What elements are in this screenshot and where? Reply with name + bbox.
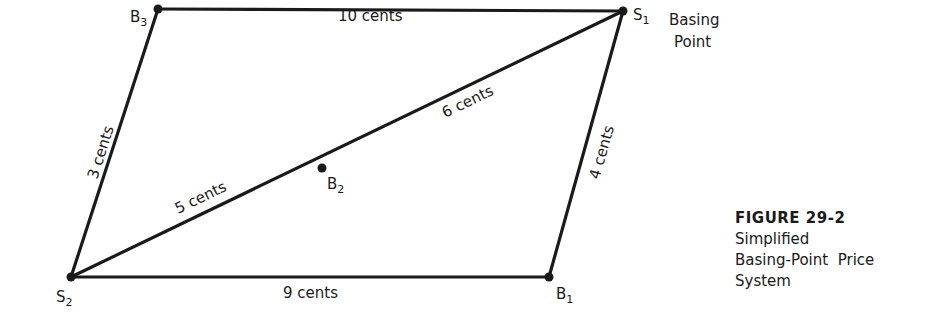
- figure-title-line1: Simplified: [735, 229, 874, 250]
- node-dot-s2: [67, 273, 76, 282]
- figure-caption: FIGURE 29-2 Simplified Basing-Point Pric…: [735, 208, 874, 292]
- edge-label-5-cents: 5 cents: [172, 177, 230, 217]
- node-label-s1: S1: [633, 6, 650, 27]
- edge-s2-s1-diagonal: [71, 11, 623, 277]
- figure-title-line3: System: [735, 271, 874, 292]
- edge-label-10-cents: 10 cents: [338, 7, 403, 25]
- node-label-b2: B2: [327, 175, 344, 196]
- node-dot-b2: [318, 164, 327, 173]
- figure-title-line2: Basing-Point Price: [735, 250, 874, 271]
- edge-s2-b3: [71, 9, 158, 277]
- node-dot-b3: [154, 5, 163, 14]
- edge-label-9-cents: 9 cents: [283, 284, 338, 302]
- basing-point-annotation-line1: Basing: [669, 11, 720, 29]
- node-dot-s1: [619, 7, 628, 16]
- node-dot-b1: [545, 273, 554, 282]
- basing-point-annotation-line2: Point: [674, 33, 711, 51]
- node-label-b3: B3: [130, 8, 147, 29]
- figure-number: FIGURE 29-2: [735, 208, 874, 229]
- node-label-b1: B1: [556, 285, 573, 306]
- node-label-s2: S2: [56, 288, 73, 309]
